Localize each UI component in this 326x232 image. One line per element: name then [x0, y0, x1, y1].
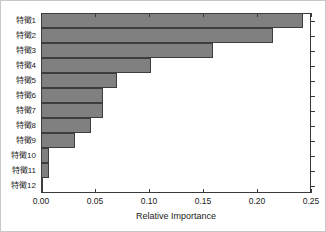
x-axis-tick-label: 0.15 — [195, 196, 212, 206]
y-axis-tick-mark — [311, 81, 315, 82]
y-axis-tick-mark — [311, 156, 315, 157]
x-axis-tick-mark-top — [149, 13, 150, 17]
y-axis-tick-label: 特徵3 — [1, 46, 39, 56]
x-axis-tick-label: 0.05 — [87, 196, 104, 206]
bar — [41, 118, 91, 133]
y-axis-tick-mark — [311, 21, 315, 22]
x-axis-tick-label: 0.20 — [249, 196, 266, 206]
bar — [41, 103, 103, 118]
x-axis-tick-mark-top — [311, 13, 312, 17]
y-axis-tick-mark — [311, 96, 315, 97]
x-axis-tick-mark-top — [257, 13, 258, 17]
figure-canvas: 特徵1特徵2特徵3特徵4特徵5特徵6特徵7特徵8特徵9特徵10特徵11特徵12 … — [0, 0, 326, 232]
bar — [41, 73, 117, 88]
y-axis-tick-mark — [311, 186, 315, 187]
x-axis-tick-mark — [149, 189, 150, 193]
x-axis-title: Relative Importance — [41, 211, 311, 221]
bar — [41, 43, 213, 58]
bar — [41, 28, 273, 43]
x-axis-tick-mark — [203, 189, 204, 193]
y-axis-tick-mark — [311, 141, 315, 142]
y-axis-tick-label: 特徵11 — [1, 166, 39, 176]
bar — [41, 148, 49, 163]
y-axis-tick-label: 特徵7 — [1, 106, 39, 116]
y-axis-tick-label: 特徵12 — [1, 181, 39, 191]
y-axis-tick-mark — [311, 111, 315, 112]
x-axis-tick-mark — [311, 189, 312, 193]
bar — [41, 133, 75, 148]
y-axis-tick-label: 特徵10 — [1, 151, 39, 161]
y-axis-tick-label: 特徵4 — [1, 61, 39, 71]
bar — [41, 58, 151, 73]
y-axis-tick-label: 特徵5 — [1, 76, 39, 86]
y-axis-tick-mark — [311, 126, 315, 127]
bar — [41, 88, 103, 103]
y-axis-tick-mark — [311, 51, 315, 52]
y-axis-tick-label: 特徵6 — [1, 91, 39, 101]
y-axis-tick-label: 特徵2 — [1, 31, 39, 41]
y-axis-tick-mark — [311, 36, 315, 37]
x-axis-tick-label: 0.25 — [303, 196, 320, 206]
y-axis-tick-label: 特徵8 — [1, 121, 39, 131]
x-axis-tick-label: 0.00 — [33, 196, 50, 206]
x-axis-tick-mark-top — [41, 13, 42, 17]
x-axis-tick-label: 0.10 — [141, 196, 158, 206]
x-axis-tick-mark — [95, 189, 96, 193]
y-axis-tick-label: 特徵1 — [1, 16, 39, 26]
x-axis-tick-mark-top — [95, 13, 96, 17]
y-axis-tick-mark — [311, 171, 315, 172]
x-axis-tick-mark-top — [203, 13, 204, 17]
x-axis-tick-mark — [257, 189, 258, 193]
bar — [41, 13, 303, 28]
x-axis-tick-mark — [41, 189, 42, 193]
y-axis-tick-label: 特徵9 — [1, 136, 39, 146]
y-axis-tick-mark — [311, 66, 315, 67]
bar — [41, 163, 49, 178]
